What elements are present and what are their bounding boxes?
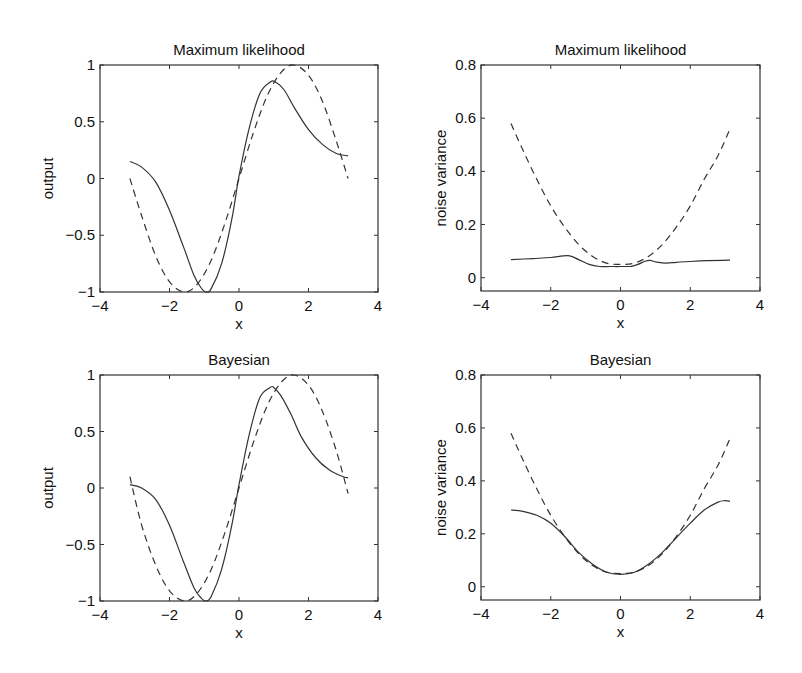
y-tick-label: 0.4 — [455, 472, 476, 489]
x-tick-label: 4 — [374, 297, 382, 314]
y-tick-label: 0.8 — [455, 56, 476, 73]
y-tick-label: 0 — [87, 170, 95, 187]
x-tick-label: −2 — [161, 606, 178, 623]
y-axis-label: noise variance — [432, 439, 449, 536]
x-tick-label: 0 — [616, 605, 624, 622]
y-tick-label: −1 — [78, 592, 95, 609]
solid-series-line — [511, 256, 730, 267]
y-tick-label: 0.4 — [455, 162, 476, 179]
dashed-series-line — [130, 375, 348, 601]
subplot-top-right: Maximum likelihood−4−202400.20.40.60.8xn… — [432, 41, 764, 331]
x-axis-label: x — [617, 623, 625, 640]
solid-series-line — [130, 81, 348, 292]
y-tick-label: 0 — [87, 479, 95, 496]
dashed-series-line — [511, 433, 730, 573]
x-tick-label: 2 — [304, 606, 312, 623]
x-tick-label: 2 — [686, 296, 694, 313]
y-tick-label: 0.6 — [455, 109, 476, 126]
x-tick-label: 4 — [374, 606, 382, 623]
y-tick-label: 0 — [468, 578, 476, 595]
y-tick-label: 1 — [87, 56, 95, 73]
subplot-bottom-left: Bayesian−4−2024−1−0.500.51xoutput — [39, 351, 382, 641]
y-tick-label: 0.2 — [455, 525, 476, 542]
x-tick-label: 0 — [616, 296, 624, 313]
y-axis-label: output — [39, 157, 56, 200]
subplot-title: Bayesian — [208, 351, 270, 368]
x-axis-label: x — [617, 314, 625, 331]
axes-frame — [481, 375, 760, 600]
axes-frame — [481, 65, 760, 291]
y-tick-label: −0.5 — [65, 536, 95, 553]
x-tick-label: 0 — [235, 297, 243, 314]
x-tick-label: 2 — [304, 297, 312, 314]
x-tick-label: −2 — [542, 605, 559, 622]
subplot-title: Maximum likelihood — [173, 41, 305, 58]
subplot-top-left: Maximum likelihood−4−2024−1−0.500.51xout… — [39, 41, 382, 332]
figure: Maximum likelihood−4−2024−1−0.500.51xout… — [0, 0, 802, 673]
y-tick-label: 0.2 — [455, 216, 476, 233]
x-tick-label: 0 — [235, 606, 243, 623]
y-tick-label: 0 — [468, 269, 476, 286]
x-tick-label: −2 — [542, 296, 559, 313]
x-tick-label: −4 — [472, 605, 489, 622]
subplot-title: Maximum likelihood — [555, 41, 687, 58]
solid-series-line — [130, 386, 348, 601]
y-tick-label: 0.6 — [455, 419, 476, 436]
x-tick-label: 4 — [756, 296, 764, 313]
x-tick-label: 4 — [756, 605, 764, 622]
solid-series-line — [511, 501, 730, 575]
y-axis-label: output — [39, 466, 56, 509]
y-tick-label: 0.5 — [74, 423, 95, 440]
x-tick-label: −4 — [472, 296, 489, 313]
x-tick-label: 2 — [686, 605, 694, 622]
subplot-bottom-right: Bayesian−4−202400.20.40.60.8xnoise varia… — [432, 351, 764, 640]
y-tick-label: 0.5 — [74, 113, 95, 130]
x-axis-label: x — [235, 624, 243, 641]
y-tick-label: −0.5 — [65, 226, 95, 243]
y-tick-label: 1 — [87, 366, 95, 383]
x-tick-label: −2 — [161, 297, 178, 314]
y-tick-label: −1 — [78, 283, 95, 300]
x-axis-label: x — [235, 315, 243, 332]
subplot-title: Bayesian — [590, 351, 652, 368]
y-tick-label: 0.8 — [455, 366, 476, 383]
y-axis-label: noise variance — [432, 130, 449, 227]
dashed-series-line — [511, 124, 730, 265]
